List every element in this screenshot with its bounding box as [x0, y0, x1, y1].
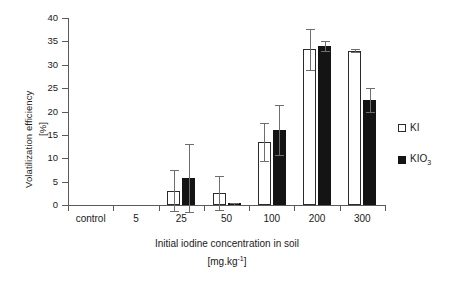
error-bar-cap-lower	[275, 155, 284, 156]
legend-label-ki: KI	[410, 122, 419, 133]
error-bar-cap-upper	[170, 170, 179, 171]
error-bar-cap-lower	[185, 212, 194, 213]
y-axis-tick-label: 0	[18, 199, 58, 210]
error-bar	[370, 88, 371, 112]
error-bar-cap-lower	[366, 112, 375, 113]
error-bar-cap-upper	[230, 203, 239, 204]
x-axis-unit-prefix: [mg.kg	[207, 256, 237, 267]
x-axis-tick	[204, 206, 205, 211]
bar-ki-200	[303, 49, 316, 205]
x-axis-tick	[159, 206, 160, 211]
legend-swatch-kio3	[398, 156, 406, 164]
bar-kio3-200	[318, 46, 331, 205]
legend: KI KIO3	[398, 122, 431, 186]
x-axis-tick	[68, 206, 69, 211]
x-axis-category-label: 5	[133, 213, 139, 224]
x-axis-tick	[249, 206, 250, 211]
error-bar-cap-upper	[366, 88, 375, 89]
x-axis-category-label: 300	[354, 213, 371, 224]
bar-kio3-300	[363, 100, 376, 205]
error-bar-cap-upper	[321, 41, 330, 42]
x-axis-line	[68, 205, 386, 206]
legend-item-kio3[interactable]: KIO3	[398, 153, 431, 166]
x-axis-title-line2: [mg.kg-1]	[68, 251, 386, 269]
x-axis-category-label: control	[76, 213, 106, 224]
volatilization-efficiency-bar-chart: Volatilization efficiency [%] 0510152025…	[0, 0, 453, 281]
error-bar-cap-upper	[351, 49, 360, 50]
error-bar-cap-lower	[351, 52, 360, 53]
x-axis-category-label: 25	[176, 213, 187, 224]
error-bar-cap-upper	[275, 105, 284, 106]
x-axis-category-label: 200	[309, 213, 326, 224]
y-axis-tick-label: 5	[18, 176, 58, 187]
y-axis-tick-label: 10	[18, 152, 58, 163]
x-axis-tick	[294, 206, 295, 211]
error-bar	[264, 123, 265, 160]
y-axis-tick-label: 35	[18, 35, 58, 46]
legend-item-ki[interactable]: KI	[398, 122, 431, 133]
x-axis-category-label: 100	[263, 213, 280, 224]
error-bar	[310, 29, 311, 70]
error-bar-cap-upper	[185, 144, 194, 145]
legend-label-kio3: KIO3	[410, 153, 431, 166]
x-axis-category-label: 50	[221, 213, 232, 224]
error-bar	[219, 176, 220, 210]
y-axis-tick-label: 25	[18, 82, 58, 93]
x-axis-tick	[340, 206, 341, 211]
error-bar-cap-upper	[306, 29, 315, 30]
error-bar-cap-lower	[230, 205, 239, 206]
x-axis-title: Initial iodine concentration in soil [mg…	[68, 236, 386, 269]
error-bar-cap-lower	[170, 211, 179, 212]
error-bar-cap-lower	[321, 51, 330, 52]
y-axis-tick-label: 20	[18, 106, 58, 117]
bar-ki-300	[348, 51, 361, 205]
legend-label-kio3-sub: 3	[427, 159, 431, 166]
y-axis-tick-label: 30	[18, 59, 58, 70]
legend-label-kio3-base: KIO	[410, 153, 427, 164]
error-bar-cap-upper	[215, 176, 224, 177]
x-axis-tick	[385, 206, 386, 211]
y-axis-tick-label: 15	[18, 129, 58, 140]
legend-swatch-ki	[398, 124, 406, 132]
error-bar-cap-lower	[215, 210, 224, 211]
error-bar	[174, 170, 175, 210]
error-bar-cap-upper	[260, 123, 269, 124]
error-bar	[279, 105, 280, 155]
x-axis-unit-suffix: ]	[244, 256, 247, 267]
x-axis-tick	[113, 206, 114, 211]
plot-area	[68, 18, 385, 205]
error-bar-cap-lower	[260, 161, 269, 162]
y-axis-tick-label: 40	[18, 12, 58, 23]
error-bar-cap-lower	[306, 70, 315, 71]
x-axis-title-line1: Initial iodine concentration in soil	[68, 236, 386, 251]
error-bar	[189, 144, 190, 211]
error-bar	[325, 41, 326, 50]
